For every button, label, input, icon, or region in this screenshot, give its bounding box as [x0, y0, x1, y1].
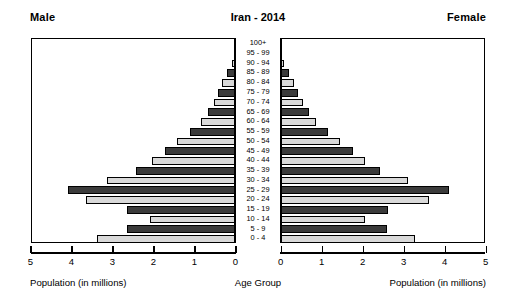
- age-group-label: 50 - 54: [236, 137, 280, 144]
- age-group-label: 35 - 39: [236, 166, 280, 173]
- bar-row: [280, 138, 484, 146]
- age-group-label: 15 - 19: [236, 205, 280, 212]
- axis-tick: [71, 246, 72, 253]
- bar-female-15-19: [280, 206, 388, 214]
- bar-row: [280, 89, 484, 97]
- age-group-label: 75 - 79: [236, 88, 280, 95]
- bar-row: [280, 216, 484, 224]
- axis-tick-label: 2: [141, 256, 165, 267]
- bar-female-70-74: [280, 99, 303, 107]
- bar-row: [32, 108, 236, 116]
- bar-row: [32, 79, 236, 87]
- age-group-label: 45 - 49: [236, 147, 280, 154]
- axis-tick: [235, 246, 236, 253]
- age-group-label: 95 - 99: [236, 49, 280, 56]
- bar-male-10-14: [150, 216, 237, 224]
- age-group-label: 85 - 89: [236, 68, 280, 75]
- bar-row: [280, 99, 484, 107]
- bar-male-25-29: [68, 186, 236, 194]
- bar-female-20-24: [280, 196, 429, 204]
- female-x-axis-line: [280, 252, 485, 254]
- bar-row: [32, 167, 236, 175]
- axis-tick: [363, 246, 364, 253]
- axis-tick: [486, 246, 487, 253]
- bar-male-40-44: [152, 157, 236, 165]
- bar-row: [32, 118, 236, 126]
- bar-female-30-34: [280, 177, 408, 185]
- axis-tick-label: 3: [392, 256, 416, 267]
- bar-female-10-14: [280, 216, 365, 224]
- bar-row: [32, 40, 236, 48]
- male-bar-rows: [32, 39, 236, 242]
- bar-male-55-59: [190, 128, 236, 136]
- age-group-label: 90 - 94: [236, 59, 280, 66]
- age-group-label: 80 - 84: [236, 78, 280, 85]
- age-group-label-column: 100+95 - 9990 - 9485 - 8980 - 8475 - 797…: [236, 38, 280, 243]
- bar-row: [32, 177, 236, 185]
- age-group-label: 5 - 9: [236, 225, 280, 232]
- bar-row: [280, 118, 484, 126]
- bar-male-15-19: [127, 206, 236, 214]
- bar-row: [32, 60, 236, 68]
- bar-male-60-64: [201, 118, 236, 126]
- bar-female-5-9: [280, 225, 387, 233]
- bar-row: [280, 40, 484, 48]
- bar-male-70-74: [214, 99, 236, 107]
- axis-tick-label: 2: [351, 256, 375, 267]
- age-group-label: 30 - 34: [236, 176, 280, 183]
- bar-female-0-4: [280, 235, 415, 243]
- bar-female-35-39: [280, 167, 380, 175]
- bar-row: [32, 50, 236, 58]
- bar-row: [32, 128, 236, 136]
- axis-tick-label: 1: [310, 256, 334, 267]
- bar-female-80-84: [280, 79, 294, 87]
- bar-row: [280, 108, 484, 116]
- bar-row: [280, 79, 484, 87]
- bar-row: [32, 216, 236, 224]
- bar-row: [32, 225, 236, 233]
- bar-row: [280, 147, 484, 155]
- bar-male-75-79: [218, 89, 236, 97]
- bar-male-35-39: [136, 167, 236, 175]
- age-group-label: 10 - 14: [236, 215, 280, 222]
- bar-female-55-59: [280, 128, 328, 136]
- axis-tick-label: 3: [100, 256, 124, 267]
- bar-male-0-4: [97, 235, 236, 243]
- bar-female-40-44: [280, 157, 365, 165]
- axis-tick-label: 5: [474, 256, 498, 267]
- age-group-label: 55 - 59: [236, 127, 280, 134]
- bar-female-75-79: [280, 89, 298, 97]
- population-pyramid-chart: Male Iran - 2014 Female 100+95 - 9990 - …: [0, 0, 516, 305]
- chart-title: Iran - 2014: [0, 11, 516, 23]
- axis-tick: [153, 246, 154, 253]
- bar-female-45-49: [280, 147, 353, 155]
- male-plot-panel: [31, 38, 236, 243]
- female-plot-panel: [280, 38, 485, 243]
- bar-row: [32, 138, 236, 146]
- age-group-label: 20 - 24: [236, 195, 280, 202]
- axis-tick: [281, 246, 282, 253]
- axis-tick: [322, 246, 323, 253]
- bar-row: [280, 50, 484, 58]
- age-group-label: 60 - 64: [236, 117, 280, 124]
- bar-row: [280, 177, 484, 185]
- axis-tick-label: 1: [182, 256, 206, 267]
- age-group-label: 100+: [236, 39, 280, 46]
- axis-tick: [404, 246, 405, 253]
- age-group-label: 0 - 4: [236, 234, 280, 241]
- bar-male-5-9: [127, 225, 236, 233]
- axis-tick: [445, 246, 446, 253]
- bar-female-25-29: [280, 186, 449, 194]
- bar-male-50-54: [177, 138, 236, 146]
- axis-tick-label: 4: [59, 256, 83, 267]
- bar-female-50-54: [280, 138, 340, 146]
- bar-row: [280, 60, 484, 68]
- axis-tick: [30, 246, 31, 253]
- bar-row: [280, 167, 484, 175]
- bar-row: [280, 196, 484, 204]
- age-group-label: 25 - 29: [236, 186, 280, 193]
- bar-female-60-64: [280, 118, 316, 126]
- bar-row: [32, 196, 236, 204]
- bar-row: [32, 99, 236, 107]
- bar-row: [32, 235, 236, 243]
